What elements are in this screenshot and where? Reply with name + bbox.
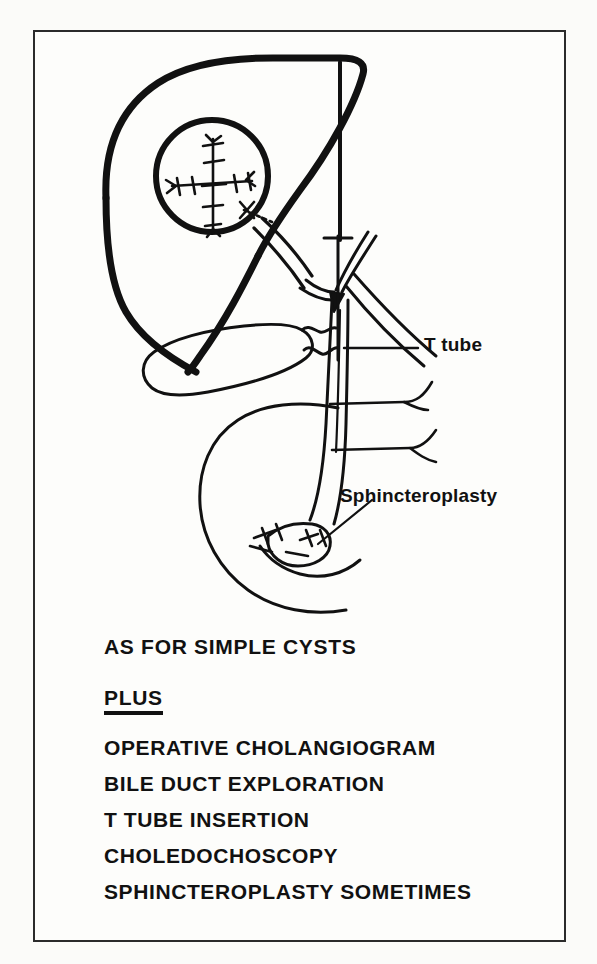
procedure-item-3: CHOLEDOCHOSCOPY: [104, 845, 524, 866]
procedure-item-0: OPERATIVE CHOLANGIOGRAM: [104, 737, 524, 758]
procedure-item-1: BILE DUCT EXPLORATION: [104, 773, 524, 794]
t-tube-external-outer: [346, 286, 424, 366]
cyst-drain-tube-lower: [254, 228, 304, 288]
plus-heading-wrapper: PLUS: [104, 687, 524, 715]
liver-right-inferior-edge: [188, 256, 258, 372]
cyst-entry-cross: [240, 202, 254, 218]
annotation-t-tube: T tube: [424, 334, 482, 356]
plus-heading: PLUS: [104, 687, 163, 715]
pancreatic-duct-branch-upper-fork: [404, 402, 428, 410]
sphincteroplasty-sutures: [250, 524, 326, 556]
heading-as-for-simple-cysts: AS FOR SIMPLE CYSTS: [104, 636, 524, 657]
gallbladder: [143, 324, 312, 395]
duodenum-outer-curve: [260, 546, 360, 576]
procedure-item-2: T TUBE INSERTION: [104, 809, 524, 830]
pancreatic-duct-branch-lower-fork: [410, 448, 436, 462]
pancreatic-duct-branch-lower: [332, 430, 436, 450]
annotation-sphincteroplasty: Sphincteroplasty: [340, 485, 497, 507]
left-hepatic-duct-inner: [306, 280, 334, 292]
figure-page: T tube Sphincteroplasty AS FOR SIMPLE CY…: [0, 0, 597, 964]
procedure-text-block: AS FOR SIMPLE CYSTS PLUS OPERATIVE CHOLA…: [104, 636, 524, 902]
procedure-item-4: SPHINCTEROPLASTY SOMETIMES: [104, 881, 524, 902]
